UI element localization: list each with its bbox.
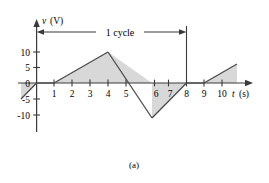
x-axis-title-unit: (s) (239, 89, 249, 100)
waveform-line-group (21, 52, 237, 118)
x-tick-label-4: 4 (106, 89, 111, 99)
y-tick-label-10: 10 (21, 48, 31, 58)
y-axis-arrowhead (33, 19, 39, 27)
x-tick-label-5: 5 (124, 89, 129, 99)
waveform-chart: 1 cycle 10 5 0 -5 -10 1 2 3 4 5 6 7 8 9 … (0, 0, 269, 183)
x-tick-label-7: 7 (168, 89, 173, 99)
y-tick-label-minus10: -10 (17, 111, 30, 121)
y-tick-label-0: 0 (25, 79, 30, 89)
y-tick-label-5: 5 (25, 63, 30, 73)
cycle-arrowhead-right (179, 29, 187, 35)
waveform-fill-positive (54, 52, 152, 83)
waveform-segment-fall-1 (108, 52, 152, 118)
figure-container: 1 cycle 10 5 0 -5 -10 1 2 3 4 5 6 7 8 9 … (0, 0, 269, 183)
x-tick-label-9: 9 (202, 89, 207, 99)
axis-titles: v (V) t (s) (42, 16, 249, 100)
x-tick-label-10: 10 (217, 89, 227, 99)
y-axis-title-symbol: v (42, 16, 47, 26)
x-tick-labels: 1 2 3 4 5 6 7 8 9 10 (52, 89, 227, 99)
y-tick-label-minus5: -5 (22, 95, 30, 105)
cycle-arrowhead-left (37, 29, 44, 35)
x-axis-arrowhead (245, 80, 253, 86)
y-axis-title-unit: (V) (50, 16, 63, 27)
x-tick-label-3: 3 (88, 89, 93, 99)
x-tick-label-6: 6 (154, 89, 159, 99)
x-tick-label-8: 8 (184, 89, 189, 99)
waveform-fill-group (21, 52, 237, 118)
figure-caption: (a) (129, 160, 139, 170)
x-axis-title-symbol: t (232, 89, 235, 99)
x-tick-label-2: 2 (70, 89, 75, 99)
x-tick-label-1: 1 (52, 89, 57, 99)
cycle-label: 1 cycle (106, 27, 135, 38)
